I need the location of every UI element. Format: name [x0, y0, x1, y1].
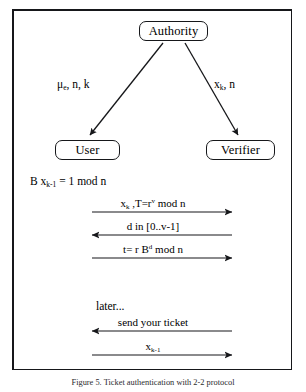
message-3-p1: d	[149, 243, 153, 251]
branch-label-left: μe, n, k	[57, 79, 90, 91]
message-4-text: send your ticket	[118, 316, 188, 328]
message-1-p4: mod n	[155, 197, 186, 209]
user-relation-rest: = 1 mod n	[56, 175, 106, 187]
branch-label-right: xk, n	[214, 79, 235, 91]
figure-caption: Figure 5. Ticket authentication with 2-2…	[14, 378, 292, 388]
message-label-5: xk-1	[0, 341, 306, 352]
node-authority-label: Authority	[149, 25, 199, 38]
node-verifier[interactable]: Verifier	[206, 140, 275, 160]
message-1-p1: k	[126, 203, 130, 211]
user-relation-prefix: B x	[30, 175, 46, 187]
node-user-label: User	[75, 144, 99, 157]
message-2-text: d in [0..v-1]	[127, 220, 180, 232]
branch-right-subscript: k	[220, 83, 224, 92]
message-label-3: t= r Bd mod n	[0, 244, 306, 255]
message-label-2: d in [0..v-1]	[0, 221, 306, 232]
user-relation-equation: B xk-1 = 1 mod n	[30, 176, 106, 188]
node-verifier-label: Verifier	[221, 144, 260, 157]
branch-right-base: x	[214, 78, 220, 90]
message-1-p3: v	[152, 197, 156, 205]
branch-left-rest: , n, k	[67, 78, 90, 90]
message-label-4: send your ticket	[0, 317, 306, 328]
node-authority[interactable]: Authority	[139, 21, 208, 41]
message-3-p0: t= r B	[123, 243, 149, 255]
message-5-p1: k-1	[151, 346, 160, 354]
user-relation-subscript: k-1	[46, 180, 56, 189]
message-3-p2: mod n	[152, 243, 183, 255]
message-label-1: xk ,T=rv mod n	[0, 198, 306, 209]
node-user[interactable]: User	[55, 140, 120, 160]
branch-right-rest: , n	[224, 78, 236, 90]
branch-left-subscript: e	[63, 83, 66, 92]
figure-container: Authority User Verifier μe, n, k xk, n B…	[0, 0, 306, 392]
message-1-p2: ,T=r	[129, 197, 151, 209]
later-note: later...	[96, 301, 124, 313]
